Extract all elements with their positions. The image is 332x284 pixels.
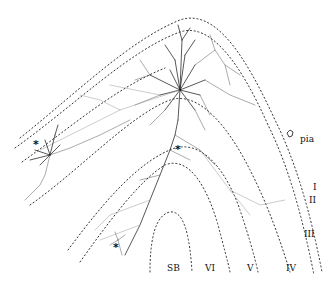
marker-soma-middle: *	[175, 144, 181, 155]
pia-marker-icon	[287, 130, 293, 137]
label-pia: pia	[300, 135, 314, 144]
label-layer-V: V	[247, 264, 254, 273]
neuron-layer-diagram: pia I II III IV V VI SB * * *	[0, 0, 332, 284]
layer-boundaries	[15, 18, 322, 275]
label-layer-III: III	[304, 230, 315, 239]
label-layer-I: I	[313, 183, 317, 192]
boundary-V-VI	[80, 163, 230, 272]
label-SB: SB	[167, 264, 180, 273]
boundary-IV-V	[68, 147, 258, 272]
neuron-left	[25, 120, 130, 200]
marker-soma-bottom: *	[113, 242, 119, 253]
marker-soma-left: *	[33, 139, 39, 150]
label-layer-VI: VI	[205, 264, 215, 273]
label-layer-II: II	[309, 196, 316, 205]
diagram-canvas	[0, 0, 332, 284]
label-layer-IV: IV	[286, 264, 296, 273]
boundary-II-III	[22, 68, 165, 162]
neuron-main	[40, 25, 285, 255]
